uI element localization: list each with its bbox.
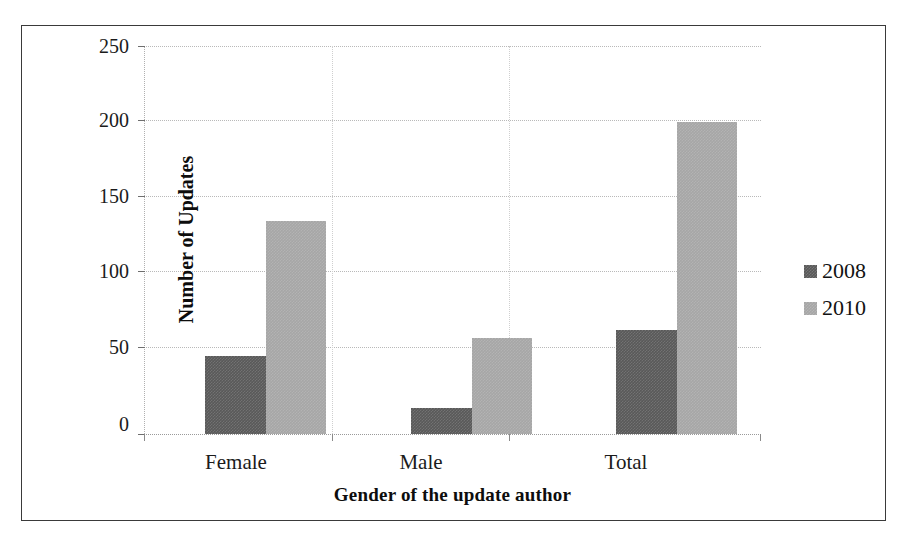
- y-tick-mark-250: [138, 46, 145, 47]
- gridline-100: [144, 271, 761, 272]
- legend: 2008 2010: [804, 258, 899, 332]
- y-tick-mark-100: [138, 271, 145, 272]
- y-tick-label-50: 50: [49, 337, 129, 357]
- x-axis-title: Gender of the update author: [144, 484, 761, 506]
- y-axis-line: [144, 46, 145, 434]
- bar-female-2010: [266, 221, 326, 434]
- legend-item-2010[interactable]: 2010: [804, 295, 899, 321]
- category-divider-1: [332, 46, 333, 434]
- chart-screenshot: 250 200 150 100 50 0: [0, 0, 902, 542]
- plot-inner: [144, 46, 761, 434]
- gridline-150: [144, 196, 761, 197]
- gridline-200: [144, 120, 761, 121]
- x-tick-mark-3: [760, 434, 761, 441]
- y-tick-mark-200: [138, 120, 145, 121]
- y-tick-label-200: 200: [49, 110, 129, 130]
- bar-total-2008: [616, 330, 677, 434]
- x-tick-label-female: Female: [176, 450, 296, 474]
- x-tick-label-male: Male: [361, 450, 481, 474]
- x-tick-label-total: Total: [566, 450, 686, 474]
- legend-label-2008: 2008: [822, 259, 866, 283]
- plot-area: 250 200 150 100 50 0: [144, 46, 761, 434]
- bar-male-2008: [411, 408, 472, 434]
- legend-label-2010: 2010: [822, 296, 866, 320]
- y-tick-mark-150: [138, 196, 145, 197]
- y-tick-label-100: 100: [49, 261, 129, 281]
- y-tick-label-0: 0: [49, 414, 129, 434]
- legend-swatch-2010: [804, 302, 817, 315]
- chart-frame: 250 200 150 100 50 0: [21, 25, 886, 521]
- gridline-250: [144, 46, 761, 47]
- bar-male-2010: [472, 338, 532, 434]
- bar-female-2008: [205, 356, 266, 434]
- y-tick-mark-50: [138, 347, 145, 348]
- y-tick-label-150: 150: [49, 186, 129, 206]
- y-axis-title: Number of Updates: [175, 90, 198, 390]
- x-tick-mark-0: [144, 434, 145, 441]
- x-axis-baseline: [144, 434, 761, 435]
- legend-swatch-2008: [804, 265, 817, 278]
- x-tick-mark-2: [509, 434, 510, 441]
- bar-total-2010: [677, 122, 737, 434]
- y-tick-label-250: 250: [49, 36, 129, 56]
- x-tick-mark-1: [332, 434, 333, 441]
- legend-item-2008[interactable]: 2008: [804, 258, 899, 284]
